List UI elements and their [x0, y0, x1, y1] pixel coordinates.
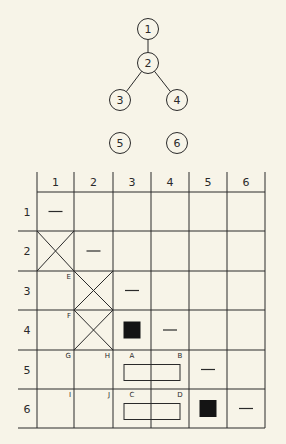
span-box-row-6 — [124, 404, 180, 420]
span-box-row-5 — [124, 365, 180, 381]
row-header-4: 4 — [24, 324, 31, 337]
column-header-4: 4 — [167, 176, 174, 189]
cell-label-F: F — [67, 312, 71, 320]
graph-node-3: 3 — [110, 90, 131, 111]
graph-node-6: 6 — [167, 133, 188, 154]
cell-label-J: J — [107, 391, 110, 399]
row-header-5: 5 — [24, 364, 31, 377]
cell-label-D: D — [177, 391, 182, 399]
cell-label-E: E — [67, 273, 71, 281]
cell-label-A: A — [130, 352, 135, 360]
adjacency-matrix: 123456123456EFGHIJABCD — [18, 172, 265, 428]
graph: 123456 — [110, 19, 188, 154]
column-header-2: 2 — [90, 176, 97, 189]
graph-edge-2-3 — [126, 71, 141, 91]
graph-node-2: 2 — [138, 53, 159, 74]
node-label: 3 — [117, 94, 124, 107]
node-label: 2 — [145, 57, 152, 70]
column-header-6: 6 — [243, 176, 250, 189]
graph-edge-2-4 — [154, 71, 170, 91]
column-header-3: 3 — [129, 176, 136, 189]
filled-cell-r6-c5 — [200, 400, 217, 417]
node-label: 6 — [174, 137, 181, 150]
cell-label-B: B — [178, 352, 183, 360]
cell-label-C: C — [130, 391, 135, 399]
cell-label-G: G — [66, 352, 71, 360]
graph-node-1: 1 — [138, 19, 159, 40]
filled-cell-r4-c3 — [124, 322, 141, 339]
node-label: 5 — [117, 137, 124, 150]
cell-label-H: H — [105, 352, 110, 360]
row-header-6: 6 — [24, 403, 31, 416]
row-header-2: 2 — [24, 245, 31, 258]
diagram-canvas: 123456 123456123456EFGHIJABCD — [0, 0, 286, 444]
column-header-1: 1 — [52, 176, 59, 189]
crossed-cell-r2-c1 — [37, 231, 74, 271]
graph-node-4: 4 — [167, 90, 188, 111]
row-header-1: 1 — [24, 206, 31, 219]
cell-label-I: I — [69, 391, 71, 399]
node-label: 1 — [145, 23, 152, 36]
crossed-cell-r4-c2 — [74, 310, 113, 350]
row-header-3: 3 — [24, 285, 31, 298]
graph-node-5: 5 — [110, 133, 131, 154]
node-label: 4 — [174, 94, 181, 107]
crossed-cell-r3-c2 — [74, 271, 113, 310]
column-header-5: 5 — [205, 176, 212, 189]
